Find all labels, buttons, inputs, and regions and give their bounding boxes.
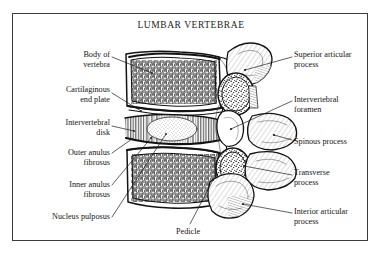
label-cartilaginous-end-plate: Cartilaginous end plate	[22, 85, 110, 104]
label-inner-anulus-fibrosus: Inner anulus fibrosus	[28, 180, 110, 199]
label-transverse-process: Transverse process	[294, 168, 376, 187]
label-intervertebral-foramen: Intervertebral foramen	[294, 95, 376, 114]
label-nucleus-pulposus: Nucleus pulposus	[20, 212, 110, 222]
page-title: LUMBAR VERTEBRAE	[0, 20, 382, 30]
label-pedicle: Pedicle	[158, 227, 218, 237]
label-intervertebral-disk: Intervertebral disk	[22, 118, 110, 137]
label-interior-articular-process: Interior articular process	[294, 207, 376, 226]
label-outer-anulus-fibrosus: Outer anulus fibrosus	[24, 148, 110, 167]
label-superior-articular-process: Superior articular process	[294, 50, 376, 69]
label-spinous-process: Spinous process	[294, 137, 380, 147]
label-body-of-vertebra: Body of vertebra	[40, 50, 110, 69]
figure-page: LUMBAR VERTEBRAE	[0, 0, 382, 257]
